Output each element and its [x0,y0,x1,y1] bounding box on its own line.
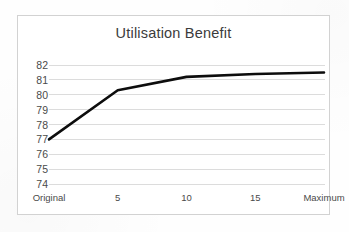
x-axis-tick-label: 5 [115,192,120,203]
y-axis-tick-label: 77 [24,133,48,145]
x-axis-tick-label: Original [33,192,66,203]
page-background: Utilisation Benefit 747576777879808182 O… [0,0,349,232]
x-axis-tick-labels: Original51015Maximum [18,192,331,212]
y-axis-tick-label: 78 [24,119,48,131]
y-axis-tick-labels: 747576777879808182 [24,16,48,216]
x-axis-tick-label: 10 [181,192,192,203]
y-axis-tick-label: 79 [24,104,48,116]
data-series-line [49,72,324,139]
y-axis-tick-label: 75 [24,163,48,175]
y-axis-tick-label: 81 [24,74,48,86]
x-axis-tick-label: 15 [250,192,261,203]
chart-frame: Utilisation Benefit 747576777879808182 O… [17,15,330,215]
y-axis-tick-label: 74 [24,178,48,190]
y-axis-tick-label: 80 [24,89,48,101]
line-chart-svg [18,16,331,216]
y-axis-tick-label: 76 [24,148,48,160]
y-axis-tick-label: 82 [24,59,48,71]
plot-area [18,16,331,216]
x-axis-tick-label: Maximum [303,192,344,203]
